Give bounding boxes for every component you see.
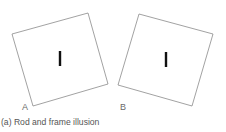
figure-caption: (a) Rod and frame illusion bbox=[1, 118, 99, 127]
panel-label-a: A bbox=[22, 103, 28, 112]
panel-label-b: B bbox=[120, 103, 126, 112]
rod-frame-diagram bbox=[0, 0, 226, 132]
